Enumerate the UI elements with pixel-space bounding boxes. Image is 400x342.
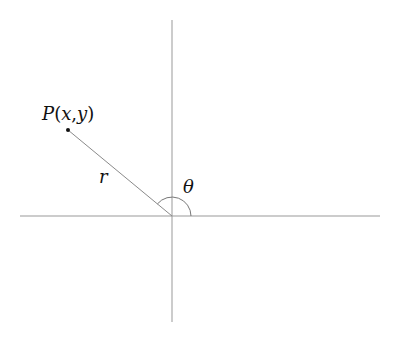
polar-diagram: P(x,y) r θ	[0, 0, 400, 342]
angle-arc	[157, 197, 191, 216]
angle-label: θ	[183, 176, 194, 197]
point-label: P(x,y)	[41, 103, 94, 124]
radius-segment	[68, 130, 172, 216]
diagram-canvas: P(x,y) r θ	[0, 0, 400, 342]
point-p	[66, 128, 70, 132]
radius-label: r	[99, 166, 109, 187]
